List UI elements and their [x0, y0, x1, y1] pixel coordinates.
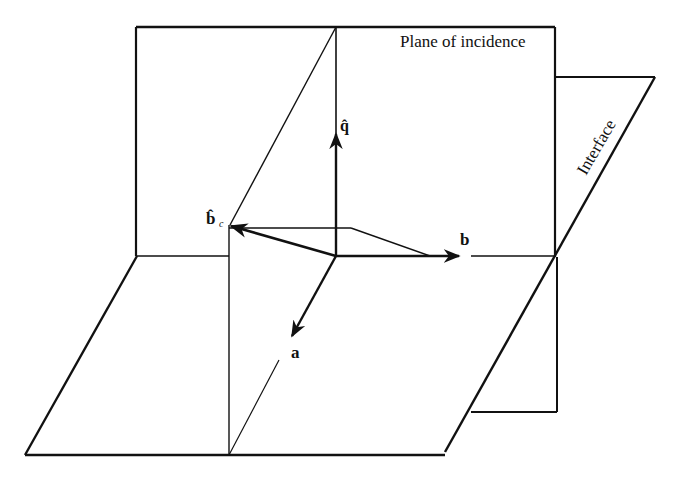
interface-plane — [445, 77, 655, 452]
diagram-canvas: Plane of incidence Interface q̂ b̂ c b a — [0, 0, 680, 483]
b-label: b — [460, 230, 469, 249]
a-label: a — [291, 343, 300, 362]
plane-of-incidence-label: Plane of incidence — [400, 32, 526, 51]
b-c-hat-arrow — [231, 226, 336, 256]
q-hat-label: q̂ — [340, 117, 349, 135]
a-arrow — [292, 256, 336, 336]
plane-of-incidence — [136, 27, 555, 257]
projection-lines — [229, 228, 430, 256]
floor-plane — [25, 225, 555, 455]
b-c-hat-label: b̂ — [206, 209, 215, 228]
b-c-subscript: c — [219, 218, 224, 229]
interface-label: Interface — [573, 116, 620, 178]
vectors — [231, 134, 459, 336]
